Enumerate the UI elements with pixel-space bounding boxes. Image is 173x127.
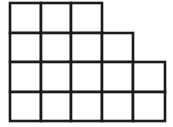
grid-cells-group: [10, 3, 165, 121]
grid-cell-r1-c1: [10, 3, 41, 33]
grid-cell-r3-c3: [71, 62, 102, 92]
grid-cell-r4-c4: [102, 92, 133, 121]
staircase-svg: [0, 0, 173, 127]
grid-cell-r1-c2: [41, 3, 71, 33]
grid-cell-r3-c1: [10, 62, 41, 92]
grid-cell-r2-c3: [71, 33, 102, 62]
grid-cell-r3-c2: [41, 62, 71, 92]
grid-cell-r2-c1: [10, 33, 41, 62]
grid-cell-r4-c1: [10, 92, 41, 121]
grid-cell-r4-c5: [133, 92, 165, 121]
grid-cell-r3-c5: [133, 62, 165, 92]
grid-cell-r4-c2: [41, 92, 71, 121]
grid-cell-r2-c2: [41, 33, 71, 62]
staircase-figure: A step-shaped figure built from equal sq…: [0, 0, 173, 127]
grid-cell-r1-c3: [71, 3, 102, 33]
grid-cell-r3-c4: [102, 62, 133, 92]
grid-cell-r2-c4: [102, 33, 133, 62]
grid-cell-r4-c3: [71, 92, 102, 121]
